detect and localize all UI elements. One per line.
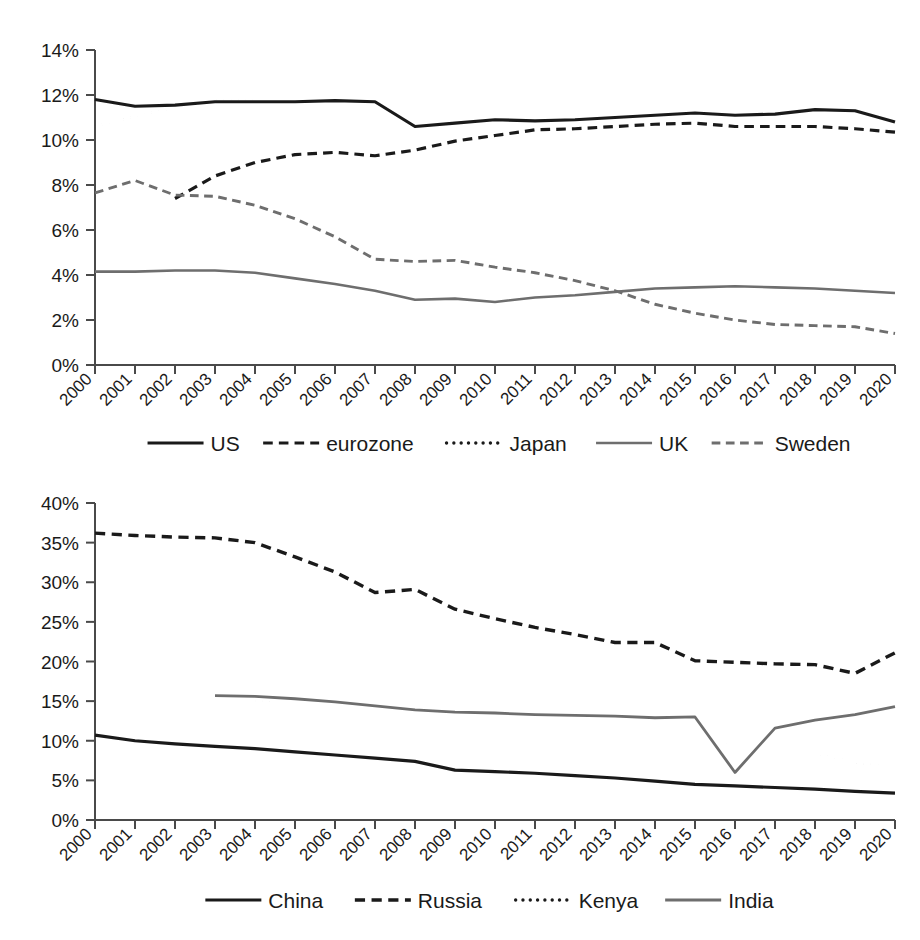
y-tick-label: 8%	[52, 175, 80, 196]
x-tick-label: 2005	[256, 369, 296, 409]
x-tick-label: 2002	[136, 824, 176, 864]
x-tick-label: 2011	[497, 824, 536, 863]
x-tick-label: 2018	[776, 369, 816, 409]
plot-axes	[95, 50, 895, 365]
legend-label-sweden: Sweden	[775, 432, 851, 455]
series-line-india	[215, 696, 895, 773]
x-tick-label: 2003	[176, 824, 216, 864]
x-tick-label: 2008	[376, 824, 416, 864]
x-tick-label: 2013	[576, 369, 616, 409]
y-tick-label: 0%	[52, 810, 80, 831]
y-tick-label: 6%	[52, 220, 80, 241]
figure-two-panel-line-charts: 0%2%4%6%8%10%12%14%200020012002200320042…	[0, 0, 920, 940]
series-line-sweden	[95, 181, 895, 334]
advanced-economies-plot: 0%2%4%6%8%10%12%14%200020012002200320042…	[0, 0, 920, 470]
series-line-uk	[95, 271, 895, 303]
series-line-us	[95, 100, 895, 127]
x-tick-label: 2017	[736, 824, 776, 864]
emerging-economies-plot: 0%5%10%15%20%25%30%35%40%200020012002200…	[0, 470, 920, 940]
x-tick-label: 2001	[96, 369, 136, 409]
advanced-economies-panel: 0%2%4%6%8%10%12%14%200020012002200320042…	[0, 0, 920, 470]
y-tick-label: 5%	[52, 770, 80, 791]
y-tick-label: 2%	[52, 310, 80, 331]
y-tick-label: 15%	[41, 691, 79, 712]
x-tick-label: 2018	[776, 824, 816, 864]
emerging-economies-panel: 0%5%10%15%20%25%30%35%40%200020012002200…	[0, 470, 920, 940]
y-tick-label: 10%	[41, 731, 79, 752]
figure-caption-cutoff	[40, 926, 880, 940]
y-tick-label: 4%	[52, 265, 80, 286]
legend-label-us: US	[211, 432, 240, 455]
x-tick-label: 2009	[416, 369, 456, 409]
y-tick-label: 10%	[41, 130, 79, 151]
x-tick-label: 2016	[696, 369, 736, 409]
x-tick-label: 2009	[416, 824, 456, 864]
y-tick-label: 40%	[41, 493, 79, 514]
y-tick-label: 0%	[52, 355, 80, 376]
y-tick-label: 30%	[41, 572, 79, 593]
legend-label-japan: Japan	[510, 432, 567, 455]
x-tick-label: 2019	[816, 369, 856, 409]
x-tick-label: 2004	[216, 824, 256, 864]
x-tick-label: 2007	[336, 369, 376, 409]
legend: USeurozoneJapanUKSweden	[148, 432, 851, 455]
y-tick-label: 12%	[41, 85, 79, 106]
x-tick-label: 2013	[576, 824, 616, 864]
x-tick-label: 2006	[296, 824, 336, 864]
x-tick-label: 2020	[856, 824, 896, 864]
x-tick-label: 2012	[536, 369, 576, 409]
x-tick-label: 2020	[856, 369, 896, 409]
legend-label-russia: Russia	[418, 889, 483, 912]
y-tick-label: 14%	[41, 40, 79, 61]
x-tick-label: 2015	[656, 824, 696, 864]
y-tick-label: 35%	[41, 533, 79, 554]
x-tick-label: 2010	[456, 824, 496, 864]
series-line-china	[95, 735, 895, 793]
x-tick-label: 2001	[96, 824, 136, 864]
x-tick-label: 2010	[456, 369, 496, 409]
x-tick-label: 2002	[136, 369, 176, 409]
legend-label-china: China	[268, 889, 323, 912]
y-tick-label: 20%	[41, 652, 79, 673]
series-line-eurozone	[175, 123, 895, 198]
x-tick-label: 2017	[736, 369, 776, 409]
y-tick-label: 25%	[41, 612, 79, 633]
x-tick-label: 2005	[256, 824, 296, 864]
legend-label-uk: UK	[659, 432, 688, 455]
x-tick-label: 2003	[176, 369, 216, 409]
x-tick-label: 2011	[497, 369, 536, 408]
x-tick-label: 2007	[336, 824, 376, 864]
legend: ChinaRussiaKenyaIndia	[205, 889, 774, 912]
x-tick-label: 2012	[536, 824, 576, 864]
x-tick-label: 2004	[216, 369, 256, 409]
series-line-kenya	[95, 700, 895, 768]
x-tick-label: 2006	[296, 369, 336, 409]
legend-label-kenya: Kenya	[579, 889, 639, 912]
x-tick-label: 2016	[696, 824, 736, 864]
series-line-russia	[95, 533, 895, 673]
x-tick-label: 2014	[616, 369, 656, 409]
x-tick-label: 2015	[656, 369, 696, 409]
legend-label-eurozone: eurozone	[326, 432, 414, 455]
x-tick-label: 2019	[816, 824, 856, 864]
x-tick-label: 2014	[616, 824, 656, 864]
legend-label-india: India	[728, 889, 774, 912]
x-tick-label: 2008	[376, 369, 416, 409]
